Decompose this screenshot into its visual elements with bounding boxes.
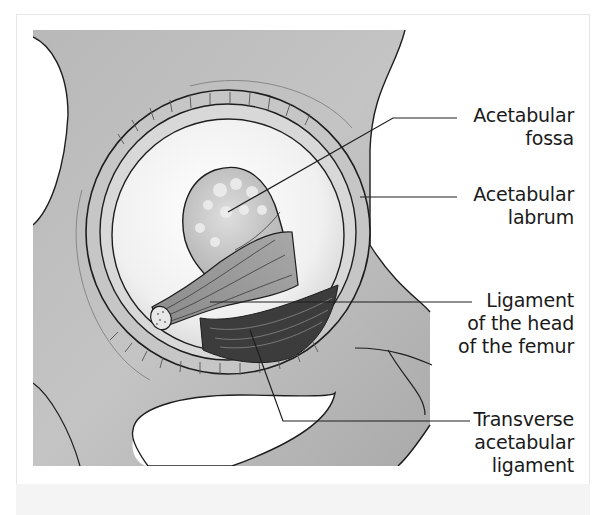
label-line: Acetabular [462,104,574,127]
label-line: of the head [440,312,574,335]
label-line: fossa [462,127,574,150]
label-line: Transverse [462,408,574,431]
label-line: of the femur [440,335,574,358]
label-line: labrum [462,206,574,229]
label-ligament-head-femur: Ligament of the head of the femur [440,289,574,358]
label-acetabular-labrum: Acetabular labrum [462,183,574,229]
label-transverse-acetabular-ligament: Transverse acetabular ligament [462,408,574,477]
label-line: Acetabular [462,183,574,206]
label-acetabular-fossa: Acetabular fossa [462,104,574,150]
label-line: acetabular [462,431,574,454]
label-line: Ligament [440,289,574,312]
label-line: ligament [462,454,574,477]
